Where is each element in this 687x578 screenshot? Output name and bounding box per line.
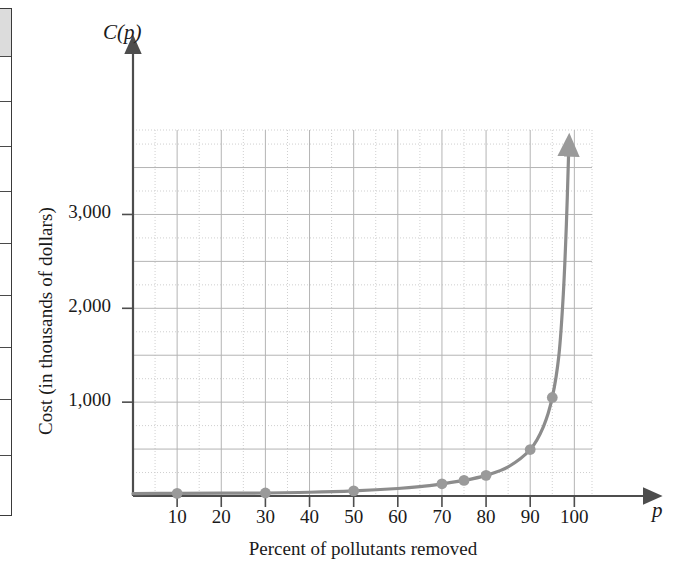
data-point-marker	[260, 488, 271, 499]
y-tick-label: 2,000	[33, 295, 111, 317]
cost-curve	[133, 153, 569, 493]
y-axis-symbol-label: C(p)	[103, 20, 142, 45]
axis-tick-marks	[122, 214, 574, 507]
chart-plot-area	[0, 0, 687, 578]
data-point-marker	[547, 392, 558, 403]
cost-curve-path	[133, 153, 569, 493]
cost-vs-pollutant-removal-chart: C(p) p Cost (in thousands of dollars) Pe…	[0, 0, 687, 578]
data-point-markers	[172, 392, 558, 499]
data-point-marker	[172, 488, 183, 499]
data-point-marker	[459, 475, 470, 486]
data-point-marker	[525, 444, 536, 455]
data-point-marker	[481, 470, 492, 481]
data-point-marker	[348, 485, 359, 496]
grid-minor-lines	[133, 130, 592, 496]
x-axis-title: Percent of pollutants removed	[133, 538, 593, 560]
grid-major-lines	[133, 130, 592, 496]
x-axis-symbol-label: p	[652, 498, 663, 523]
data-point-marker	[437, 478, 448, 489]
x-tick-label: 100	[544, 506, 604, 528]
y-tick-label: 3,000	[33, 201, 111, 223]
axis-lines	[133, 52, 645, 496]
y-tick-label: 1,000	[33, 389, 111, 411]
